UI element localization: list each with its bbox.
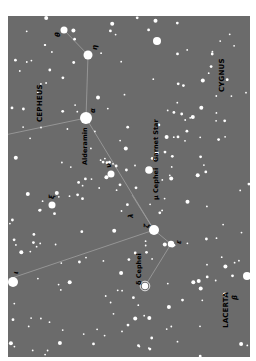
star	[37, 278, 39, 280]
star	[133, 317, 137, 321]
star	[161, 210, 163, 212]
star	[147, 316, 151, 320]
star	[30, 317, 32, 319]
star	[39, 209, 42, 212]
star	[9, 341, 13, 345]
star	[44, 44, 46, 46]
star	[229, 33, 231, 35]
star	[166, 328, 168, 330]
star	[14, 346, 16, 348]
star	[60, 262, 62, 264]
star	[177, 82, 180, 85]
star	[83, 333, 85, 335]
greek-letter-label: α	[89, 108, 97, 113]
star	[132, 296, 135, 299]
star	[152, 78, 154, 80]
star	[199, 136, 201, 138]
star	[112, 229, 116, 233]
star	[191, 115, 195, 119]
star	[85, 257, 87, 259]
star	[221, 256, 223, 258]
star	[127, 258, 130, 261]
bright-star-alpha	[80, 112, 92, 124]
star	[100, 52, 102, 54]
greek-letter-label: ε	[175, 240, 183, 244]
star	[145, 251, 148, 254]
star	[11, 107, 14, 110]
star	[22, 108, 25, 111]
star	[91, 178, 93, 180]
star	[100, 159, 102, 161]
star	[124, 94, 126, 96]
greek-letter-label: ξ	[48, 195, 56, 199]
star	[125, 169, 128, 172]
star	[226, 78, 229, 81]
constellation-line	[86, 55, 88, 118]
star	[126, 126, 129, 129]
star	[94, 131, 96, 133]
star	[119, 183, 122, 186]
star	[36, 246, 38, 248]
star	[103, 260, 105, 262]
star	[11, 219, 14, 222]
star	[147, 29, 150, 32]
star	[96, 96, 100, 100]
star	[33, 233, 36, 236]
star	[96, 328, 98, 330]
star	[136, 16, 139, 19]
star	[215, 280, 217, 282]
star	[134, 165, 136, 167]
star	[187, 242, 189, 244]
star	[49, 321, 51, 323]
star	[203, 164, 205, 166]
star	[76, 111, 78, 113]
star	[224, 136, 226, 138]
star	[73, 38, 76, 41]
bright-star-eta	[84, 51, 93, 60]
star	[61, 110, 64, 113]
star	[199, 106, 203, 110]
star	[44, 16, 48, 20]
constellation-line	[145, 244, 171, 286]
star	[163, 242, 167, 246]
star	[107, 108, 109, 110]
star	[186, 49, 188, 51]
greek-letter-label: θ	[54, 32, 62, 37]
star	[77, 181, 80, 184]
star	[170, 326, 172, 328]
star	[40, 127, 42, 129]
star	[201, 79, 205, 83]
star	[182, 84, 185, 87]
star	[210, 65, 213, 68]
star	[53, 212, 56, 215]
star	[44, 354, 46, 356]
star	[184, 140, 186, 142]
star	[137, 344, 140, 347]
sky-svg	[8, 16, 250, 357]
star	[104, 335, 106, 337]
star	[90, 148, 92, 150]
star	[47, 350, 49, 352]
star	[216, 112, 218, 114]
star	[169, 174, 171, 176]
star	[206, 264, 208, 266]
star	[241, 232, 243, 234]
star	[239, 342, 243, 346]
star	[98, 187, 100, 189]
star	[29, 137, 31, 139]
star	[82, 185, 84, 187]
star	[58, 341, 62, 345]
star	[135, 186, 138, 189]
star	[208, 72, 210, 74]
star	[186, 130, 189, 133]
star	[22, 126, 24, 128]
star	[19, 70, 21, 72]
star	[119, 271, 123, 275]
star	[124, 147, 128, 151]
star	[201, 299, 203, 301]
star	[81, 197, 84, 200]
star	[113, 313, 115, 315]
star	[127, 324, 130, 327]
star	[145, 245, 147, 247]
constellation-label-lacerta: LACERTA	[222, 292, 230, 328]
